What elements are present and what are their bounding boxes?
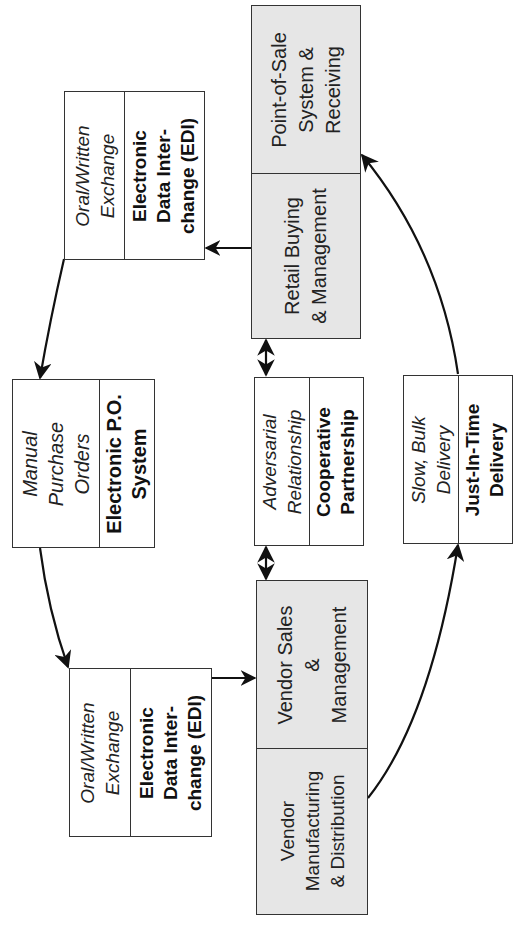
new-practice-cell: Electronic Data Inter- change (EDI) [130,669,211,836]
new-practice-cell: Electronic Data Inter- change (EDI) [124,92,204,259]
purchase-orders-old-label: Manual Purchase Orders [17,421,95,506]
retail-node: Point-of-Sale System & Receiving Retail … [251,5,361,339]
old-practice-cell: Adversarial Relationship [255,378,309,545]
supply-chain-diagram: Point-of-Sale System & Receiving Retail … [0,0,519,939]
relationship-node: Adversarial Relationship Cooperative Par… [254,377,364,546]
vendor-node: Vendor Sales & Management Vendor Manufac… [256,580,368,915]
arrow-vendor-to-delivery [368,545,458,798]
new-practice-cell: Electronic P.O. System [99,380,154,547]
old-practice-cell: Oral/Written Exchange [70,669,130,836]
retail-buying-cell: Retail Buying & Management [252,173,360,338]
old-practice-cell: Manual Purchase Orders [13,380,99,547]
exchange-top-new-label: Electronic Data Inter- change (EDI) [128,117,200,233]
old-practice-cell: Slow, Bulk Delivery [404,376,458,543]
exchange-bottom-new-label: Electronic Data Inter- change (EDI) [135,694,207,810]
exchange-bottom-node: Oral/Written Exchange Electronic Data In… [69,668,212,837]
relationship-old-label: Adversarial Relationship [257,409,307,514]
vendor-manufacturing-cell: Vendor Manufacturing & Distribution [257,748,367,914]
old-practice-cell: Oral/Written Exchange [65,92,124,259]
new-practice-cell: Cooperative Partnership [309,378,363,545]
delivery-old-label: Slow, Bulk Delivery [406,416,456,504]
delivery-new-label: Just-In-Time Delivery [461,403,509,516]
exchange-top-node: Oral/Written Exchange Electronic Data In… [64,91,205,260]
purchase-orders-new-label: Electronic P.O. System [102,394,152,534]
point-of-sale-cell: Point-of-Sale System & Receiving [252,6,360,173]
vendor-manufacturing-label: Vendor Manufacturing & Distribution [275,771,350,891]
vendor-sales-label: Vendor Sales & Management [272,605,353,724]
purchase-orders-node: Manual Purchase Orders Electronic P.O. S… [12,379,155,548]
exchange-top-old-label: Oral/Written Exchange [70,125,120,226]
new-practice-cell: Just-In-Time Delivery [458,376,512,543]
delivery-node: Slow, Bulk Delivery Just-In-Time Deliver… [403,375,513,544]
point-of-sale-label: Point-of-Sale System & Receiving [266,32,347,148]
relationship-new-label: Cooperative Partnership [312,407,360,517]
vendor-sales-cell: Vendor Sales & Management [257,581,367,748]
exchange-bottom-old-label: Oral/Written Exchange [75,702,125,803]
retail-buying-label: Retail Buying & Management [279,188,333,324]
arrow-edi-top-to-po [40,259,64,378]
arrow-po-to-edi-bottom [40,548,68,667]
arrow-delivery-to-retail [362,155,458,374]
